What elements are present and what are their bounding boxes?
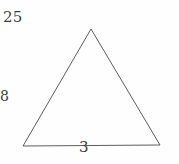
- interior-label: 8: [0, 89, 9, 104]
- vertex-label-apex: 25: [3, 10, 23, 25]
- triangle-outline: [23, 29, 160, 146]
- figure-canvas: 25 5 3 8: [0, 0, 179, 164]
- triangle-shape: [0, 0, 179, 164]
- vertex-label-bottom-right: 3: [79, 140, 89, 155]
